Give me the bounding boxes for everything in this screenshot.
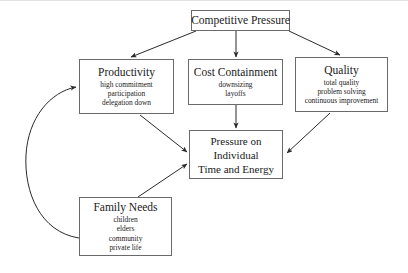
node-title: Cost Containment [194, 66, 277, 79]
node-title: Competitive Pressure [191, 14, 290, 27]
node-subtext: community [109, 234, 143, 243]
node-subtext: private life [109, 243, 141, 252]
node-productivity: Productivity high commitment participati… [79, 59, 174, 114]
node-subtext: elders [117, 224, 135, 233]
arrow-family-needs-to-pressure [138, 164, 187, 197]
node-title: Productivity [98, 66, 155, 79]
arrow-quality-to-pressure [287, 113, 330, 153]
arrow-family-needs-to-productivity-curve [26, 87, 79, 238]
node-subtext: downsizing [218, 80, 252, 89]
node-family-needs: Family Needs children elders community p… [79, 197, 172, 256]
arrow-competitive-to-productivity [131, 31, 196, 57]
node-quality: Quality total quality problem solving co… [295, 57, 388, 112]
diagram-canvas: Competitive Pressure Productivity high c… [0, 0, 408, 273]
node-title-line: Individual [213, 148, 258, 162]
node-cost-containment: Cost Containment downsizing layoffs [188, 59, 283, 105]
top-frame-rule [0, 0, 408, 1]
node-subtext: continuous improvement [305, 96, 379, 105]
node-title: Family Needs [93, 201, 157, 214]
node-subtext: children [113, 215, 137, 224]
node-competitive-pressure: Competitive Pressure [191, 10, 290, 31]
node-subtext: layoffs [225, 89, 245, 98]
node-subtext: problem solving [317, 87, 365, 96]
node-subtext: total quality [324, 78, 360, 87]
arrow-competitive-to-quality [289, 31, 340, 55]
node-title: Quality [324, 64, 359, 77]
node-title-line: Pressure on [210, 134, 261, 148]
node-subtext: delegation down [102, 98, 151, 107]
node-subtext: high commitment [100, 80, 152, 89]
node-pressure-on-individual-time-and-energy: Pressure on Individual Time and Energy [189, 130, 283, 179]
node-subtext: participation [108, 89, 145, 98]
arrow-productivity-to-pressure [140, 115, 187, 152]
node-title-line: Time and Energy [198, 162, 274, 176]
